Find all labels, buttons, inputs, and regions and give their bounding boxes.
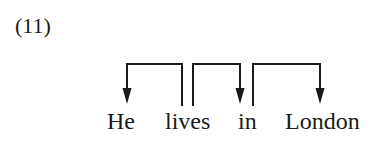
arc-lives-he bbox=[123, 64, 183, 106]
word-lives: lives bbox=[165, 107, 210, 135]
word-in: in bbox=[238, 107, 257, 135]
arc-lives-in bbox=[193, 64, 245, 106]
arrowhead-icon bbox=[123, 88, 132, 104]
word-he: He bbox=[107, 107, 135, 135]
word-london: London bbox=[285, 107, 360, 135]
arrowhead-icon bbox=[316, 88, 325, 104]
arrowhead-icon bbox=[236, 88, 245, 104]
arc-in-london bbox=[253, 64, 325, 106]
